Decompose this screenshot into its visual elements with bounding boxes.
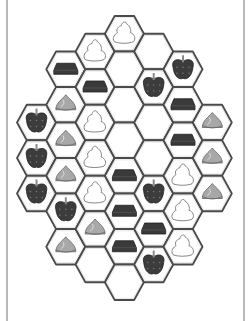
hex-cell-meringue[interactable]: [193, 140, 232, 176]
chocolate-icon: [54, 63, 78, 74]
chocolate-icon: [112, 170, 136, 181]
hex-cell-cream[interactable]: [164, 229, 203, 265]
chocolate-icon: [112, 241, 136, 252]
hex-board: [0, 0, 248, 321]
hex-cell-meringue[interactable]: [193, 176, 232, 212]
hex-cell-meringue[interactable]: [193, 105, 232, 141]
chocolate-icon: [83, 81, 107, 92]
chocolate-icon: [112, 205, 136, 216]
chocolate-icon: [171, 134, 195, 145]
chocolate-icon: [142, 223, 166, 234]
chocolate-icon: [171, 99, 195, 110]
hex-cell-apple[interactable]: [164, 52, 203, 88]
